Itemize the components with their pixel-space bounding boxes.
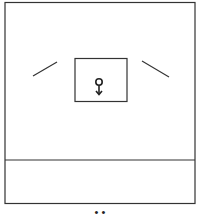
right-diagonal-line [142, 61, 169, 77]
diagram-canvas [0, 0, 200, 217]
caption-text: • • [0, 207, 200, 217]
outer-frame [5, 3, 195, 204]
female-symbol-icon [96, 79, 102, 95]
left-diagonal-line [33, 62, 57, 76]
